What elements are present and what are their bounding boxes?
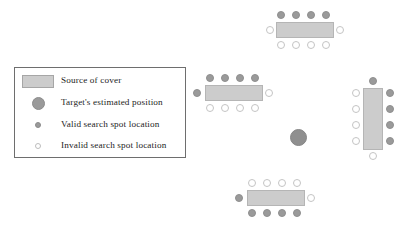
search-spot-valid-right-25 [386, 89, 394, 97]
cover-top [276, 22, 334, 38]
search-spot-valid-left-14 [193, 89, 201, 97]
search-spot-valid-right-26 [386, 105, 394, 113]
search-spot-invalid-top-6 [277, 41, 285, 49]
search-spot-valid-bottom-38 [278, 209, 286, 217]
search-spot-valid-bottom-37 [263, 209, 271, 217]
search-spot-valid-bottom-34 [235, 194, 243, 202]
legend-label-source-of-cover: Source of cover [61, 76, 121, 85]
search-spot-valid-left-10 [206, 74, 214, 82]
search-spot-valid-top-3 [322, 11, 330, 19]
legend-label-invalid-spot: Invalid search spot location [61, 141, 167, 150]
search-spot-invalid-left-16 [206, 104, 214, 112]
search-spot-invalid-right-22 [352, 105, 360, 113]
legend-item-target-position: Target's estimated position [15, 92, 185, 114]
search-spot-invalid-right-24 [352, 137, 360, 145]
legend-item-source-of-cover: Source of cover [15, 70, 185, 92]
legend-item-valid-spot: Valid search spot location [15, 114, 185, 136]
search-spot-invalid-bottom-33 [293, 179, 301, 187]
search-spot-valid-left-12 [236, 74, 244, 82]
valid-dot-icon [15, 114, 61, 136]
search-spot-invalid-bottom-32 [278, 179, 286, 187]
search-spot-invalid-top-7 [292, 41, 300, 49]
search-spot-invalid-bottom-35 [307, 194, 315, 202]
figure-canvas: Source of cover Target's estimated posit… [0, 0, 404, 226]
cover-right [363, 88, 383, 150]
search-spot-valid-left-11 [221, 74, 229, 82]
search-spot-valid-top-0 [277, 11, 285, 19]
search-spot-invalid-left-15 [265, 89, 273, 97]
legend-label-valid-spot: Valid search spot location [61, 120, 160, 129]
legend-box: Source of cover Target's estimated posit… [14, 67, 186, 158]
target-estimated-position [290, 129, 307, 146]
cover-bottom [247, 190, 305, 206]
legend-label-target-position: Target's estimated position [61, 98, 163, 107]
cover-swatch-icon [15, 70, 61, 92]
search-spot-valid-top-2 [307, 11, 315, 19]
search-spot-invalid-top-4 [266, 26, 274, 34]
search-spot-invalid-top-5 [336, 26, 344, 34]
search-spot-invalid-right-29 [369, 152, 377, 160]
search-spot-invalid-top-9 [322, 41, 330, 49]
search-spot-invalid-left-18 [236, 104, 244, 112]
search-spot-invalid-left-17 [221, 104, 229, 112]
search-spot-valid-left-13 [251, 74, 259, 82]
search-spot-invalid-left-19 [251, 104, 259, 112]
search-spot-invalid-bottom-30 [248, 179, 256, 187]
search-spot-invalid-top-8 [307, 41, 315, 49]
target-circle-icon [15, 92, 61, 114]
search-spot-invalid-right-23 [352, 121, 360, 129]
search-spot-valid-right-20 [369, 77, 377, 85]
invalid-circle-icon [15, 135, 61, 157]
search-spot-valid-right-27 [386, 121, 394, 129]
search-spot-valid-top-1 [292, 11, 300, 19]
search-spot-invalid-right-21 [352, 89, 360, 97]
cover-left [205, 85, 263, 101]
search-spot-valid-bottom-36 [248, 209, 256, 217]
search-spot-invalid-bottom-31 [263, 179, 271, 187]
legend-item-invalid-spot: Invalid search spot location [15, 135, 185, 157]
search-spot-valid-bottom-39 [293, 209, 301, 217]
search-spot-valid-right-28 [386, 137, 394, 145]
